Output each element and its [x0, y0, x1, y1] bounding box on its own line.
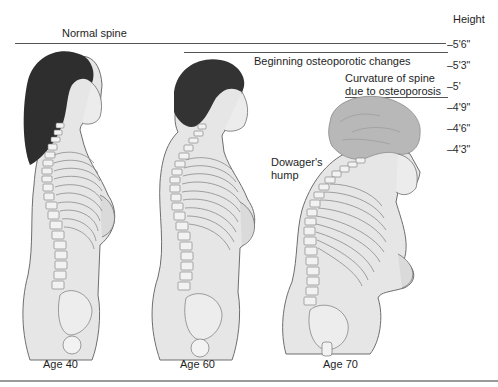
height-tick-5ft6: –5'6" — [447, 38, 470, 50]
height-tick-5ft3: –5'3" — [447, 59, 470, 71]
age-label-70: Age 70 — [323, 358, 358, 370]
normal-height-line — [15, 43, 446, 44]
height-tick-4ft6: –4'6" — [447, 122, 470, 134]
bottom-divider — [0, 380, 498, 382]
normal-spine-label: Normal spine — [62, 27, 127, 39]
height-tick-5ft: –5' — [447, 80, 461, 92]
height-tick-4ft9: –4'9" — [447, 101, 470, 113]
age-label-40: Age 40 — [43, 358, 78, 370]
figure-age-70 — [270, 92, 440, 362]
height-tick-4ft3: –4'3" — [447, 143, 470, 155]
figure-age-60 — [130, 52, 280, 372]
age-label-60: Age 60 — [180, 358, 215, 370]
height-scale-title: Height — [453, 13, 485, 25]
curvature-label-line1: Curvature of spine — [345, 72, 435, 84]
